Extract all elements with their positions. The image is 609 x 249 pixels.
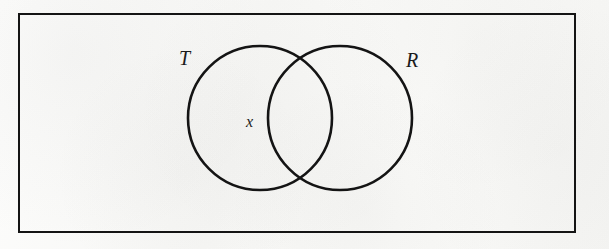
universal-set-rectangle xyxy=(19,14,575,232)
set-label-R: R xyxy=(406,50,418,70)
venn-diagram-canvas xyxy=(0,0,609,249)
set-label-T: T xyxy=(179,48,190,68)
set-circle-R xyxy=(268,46,412,190)
set-circle-T xyxy=(188,46,332,190)
venn-diagram-figure: T R x xyxy=(0,0,609,249)
region-marker-x: x xyxy=(246,114,253,130)
